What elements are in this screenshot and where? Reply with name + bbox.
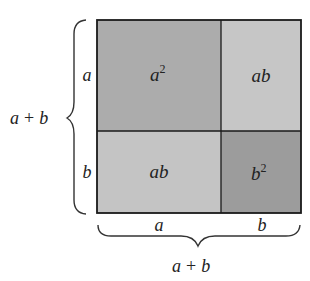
bottom-total-label: a+b xyxy=(172,256,210,276)
binomial-square-diagram: a2 ab ab b2 a b a+b a b a+b xyxy=(0,0,310,281)
bottom-brace xyxy=(98,225,300,246)
bottom-label-b: b xyxy=(258,215,267,235)
left-brace xyxy=(67,20,86,214)
bottom-label-a: a xyxy=(155,215,164,235)
label-ab-bottom: ab xyxy=(150,161,169,182)
left-label-a: a xyxy=(83,65,92,85)
label-ab-top: ab xyxy=(252,65,271,86)
left-label-b: b xyxy=(83,162,92,182)
left-total-label: a+b xyxy=(10,108,48,128)
